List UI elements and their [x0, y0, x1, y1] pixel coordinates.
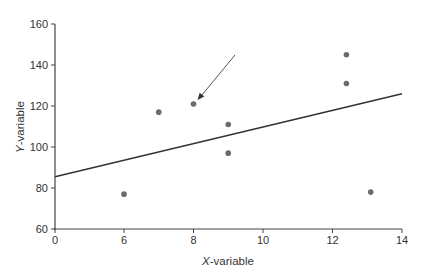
- data-point: [344, 52, 350, 58]
- data-point: [225, 150, 231, 156]
- y-tick-label: 100: [30, 141, 48, 153]
- y-tick-label: 140: [30, 59, 48, 71]
- data-point: [121, 191, 127, 197]
- annotation-arrow: [198, 55, 236, 100]
- x-axis-title: X-variable: [201, 255, 254, 267]
- axes: 6080100120140160068101214: [30, 18, 408, 246]
- y-tick-label: 80: [36, 182, 48, 194]
- x-tick-label: 12: [326, 234, 338, 246]
- x-tick-label: 8: [190, 234, 196, 246]
- data-point: [225, 122, 231, 128]
- data-points: [121, 52, 373, 197]
- x-tick-label: 0: [52, 234, 58, 246]
- y-tick-label: 60: [36, 223, 48, 235]
- scatter-chart: 6080100120140160068101214 X-variable Y-v…: [0, 0, 423, 273]
- y-axis-title: Y-variable: [14, 101, 26, 153]
- data-point: [368, 189, 374, 195]
- x-tick-label: 6: [121, 234, 127, 246]
- y-tick-label: 160: [30, 18, 48, 30]
- regression-line: [55, 94, 402, 177]
- data-point: [156, 109, 162, 115]
- x-tick-label: 10: [257, 234, 269, 246]
- data-point: [191, 101, 197, 107]
- data-point: [344, 81, 350, 87]
- x-tick-label: 14: [396, 234, 408, 246]
- y-tick-label: 120: [30, 100, 48, 112]
